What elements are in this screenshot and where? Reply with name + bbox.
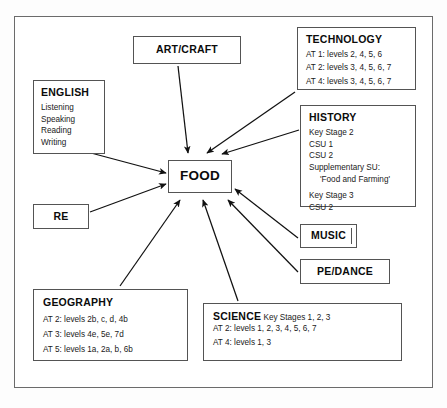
node-technology-line: AT 4: levels 3, 4, 5, 6, 7 <box>306 75 407 88</box>
node-art-craft[interactable]: ART/CRAFT <box>133 36 241 64</box>
node-history-line: CSU 1 <box>309 139 407 151</box>
node-science-line: AT 4: levels 1, 3 <box>213 336 392 350</box>
node-science-title: SCIENCE <box>213 310 261 322</box>
node-history-line: CSU 2 <box>309 150 407 162</box>
node-pe-dance[interactable]: PE/DANCE <box>300 259 390 284</box>
node-english-line: Listening <box>41 102 97 114</box>
arrow-re-food <box>90 184 166 212</box>
arrow-artcraft-food <box>178 66 188 153</box>
node-geography-line: AT 3: levels 4e, 5e, 7d <box>43 327 178 342</box>
node-english-title: ENGLISH <box>41 86 97 99</box>
arrow-music-food <box>235 189 298 238</box>
node-history[interactable]: HISTORY Key Stage 2 CSU 1 CSU 2 Suppleme… <box>300 105 416 207</box>
node-science-line: AT 2: levels 1, 2, 3, 4, 5, 6, 7 <box>213 322 392 336</box>
node-english-line: Writing <box>41 137 97 149</box>
node-history-title: HISTORY <box>309 111 407 124</box>
node-science[interactable]: SCIENCE Key Stages 1, 2, 3 AT 2: levels … <box>203 303 402 361</box>
node-re-label: RE <box>53 210 68 223</box>
music-divider <box>351 228 352 244</box>
node-food-label: FOOD <box>180 168 220 185</box>
arrow-science-food <box>203 200 238 301</box>
node-geography-title: GEOGRAPHY <box>43 296 178 309</box>
node-english[interactable]: ENGLISH Listening Speaking Reading Writi… <box>33 80 105 154</box>
node-technology-line: AT 1: levels 2, 4, 5, 6 <box>306 48 407 61</box>
node-geography-line: AT 2: levels 2b, c, d, 4b <box>43 312 178 327</box>
node-art-craft-label: ART/CRAFT <box>156 43 218 56</box>
node-pe-dance-label: PE/DANCE <box>317 265 373 278</box>
node-re[interactable]: RE <box>33 204 89 229</box>
node-technology[interactable]: TECHNOLOGY AT 1: levels 2, 4, 5, 6 AT 2:… <box>297 27 416 90</box>
node-science-heading: SCIENCE Key Stages 1, 2, 3 <box>213 310 392 322</box>
node-history-line: 'Food and Farming' <box>309 174 407 186</box>
arrow-geography-food <box>120 200 180 286</box>
node-technology-title: TECHNOLOGY <box>306 33 407 46</box>
node-english-line: Speaking <box>41 114 97 126</box>
node-history-line: Key Stage 2 <box>309 127 407 139</box>
node-food[interactable]: FOOD <box>168 160 232 193</box>
node-history-line: Supplementary SU: <box>309 162 407 174</box>
node-geography[interactable]: GEOGRAPHY AT 2: levels 2b, c, d, 4b AT 3… <box>33 289 188 361</box>
node-music-label: MUSIC <box>311 229 346 242</box>
diagram-canvas: FOOD ART/CRAFT RE MUSIC PE/DANCE ENGLISH… <box>0 0 447 408</box>
node-geography-line: AT 5: levels 1a, 2a, b, 6b <box>43 342 178 357</box>
arrow-technology-food <box>207 92 295 153</box>
node-technology-line: AT 2: levels 3, 4, 5, 6, 7 <box>306 61 407 74</box>
node-science-subtitle: Key Stages 1, 2, 3 <box>261 313 330 322</box>
node-history-line: CSU 2 <box>309 202 407 214</box>
node-music[interactable]: MUSIC <box>300 224 357 248</box>
node-english-line: Reading <box>41 125 97 137</box>
arrow-english-food <box>91 153 166 173</box>
arrow-history-food <box>222 130 299 154</box>
node-history-line: Key Stage 3 <box>309 190 407 202</box>
